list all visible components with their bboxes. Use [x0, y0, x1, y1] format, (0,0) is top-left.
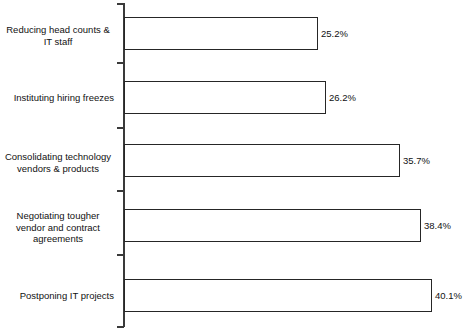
bar-category-label: Negotiating tougher vendor and contract …	[0, 210, 116, 245]
bar-value-label: 26.2%	[329, 92, 356, 103]
bar-chart: Reducing head counts & IT staff25.2%Inst…	[0, 0, 469, 335]
axis-tick	[117, 190, 124, 192]
bar-value-label: 25.2%	[321, 28, 348, 39]
bar	[124, 81, 326, 114]
axis-tick	[117, 127, 124, 129]
bar-value-label: 40.1%	[435, 290, 462, 301]
bar	[124, 17, 318, 50]
bar-value-label: 35.7%	[403, 155, 430, 166]
bar-category-label: Consolidating technology vendors & produ…	[0, 151, 116, 174]
bar	[124, 144, 400, 177]
bar-category-label: Reducing head counts & IT staff	[0, 24, 116, 47]
axis-tick	[117, 326, 124, 328]
axis-tick	[117, 254, 124, 256]
bar	[124, 209, 421, 242]
bar-value-label: 38.4%	[424, 220, 451, 231]
axis-tick	[117, 3, 124, 5]
axis-tick	[117, 62, 124, 64]
bar-category-label: Postponing IT projects	[0, 290, 116, 302]
bar-category-label: Instituting hiring freezes	[0, 92, 116, 104]
bar	[124, 279, 432, 312]
